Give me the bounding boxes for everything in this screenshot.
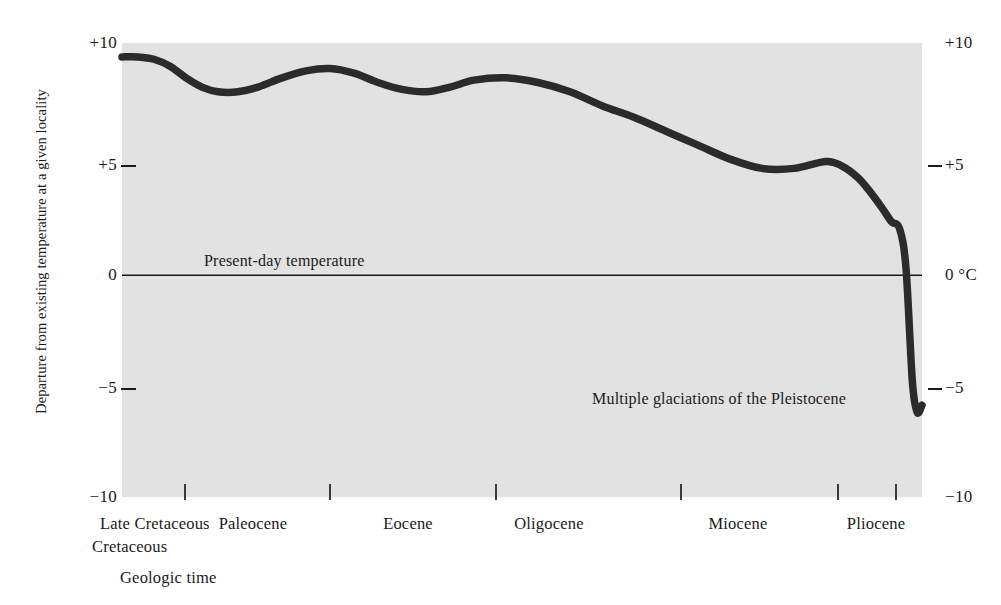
- plot-area: [122, 43, 922, 497]
- x-tick-mark-5: [837, 484, 839, 500]
- y-tick-label-left-10: +10: [75, 33, 117, 53]
- temperature-vs-geologic-time-chart: Departure from existing temperature at a…: [0, 0, 1001, 605]
- x-label-miocene: Miocene: [688, 514, 788, 534]
- x-tick-mark-3: [495, 484, 497, 500]
- y-axis-title: Departure from existing temperature at a…: [33, 22, 50, 482]
- y-tick-label-left-0: 0: [85, 265, 117, 285]
- y-tick-mark-right-neg5: [928, 388, 942, 390]
- y-tick-mark-left-5: [121, 165, 136, 167]
- y-tick-label-right-neg5: −5: [945, 378, 964, 398]
- y-tick-label-right-0: 0 °C: [945, 265, 977, 285]
- x-tick-mark-1: [184, 484, 186, 500]
- y-tick-mark-right-5: [928, 165, 942, 167]
- annotation-present-day-temperature: Present-day temperature: [204, 252, 365, 270]
- y-tick-label-right-5: +5: [945, 155, 964, 175]
- x-axis-title: Geologic time: [120, 568, 217, 588]
- x-tick-mark-2: [329, 484, 331, 500]
- y-tick-label-left-neg5: −5: [78, 378, 117, 398]
- x-label-eocene: Eocene: [358, 514, 458, 534]
- y-tick-label-left-5: +5: [80, 155, 117, 175]
- y-tick-label-right-10: +10: [945, 33, 973, 53]
- x-label-paleocene: Paleocene: [198, 514, 308, 534]
- x-tick-mark-6: [895, 484, 897, 500]
- x-label-oligocene: Oligocene: [494, 514, 604, 534]
- y-tick-label-left-neg10: −10: [72, 487, 117, 507]
- annotation-multiple-glaciations: Multiple glaciations of the Pleistocene: [592, 390, 846, 408]
- x-label-late: Late Cretaceous: [100, 514, 200, 534]
- y-tick-mark-left-neg5: [121, 388, 136, 390]
- y-tick-label-right-neg10: −10: [945, 487, 973, 507]
- x-label-cretaceous: Cretaceous: [92, 537, 167, 557]
- x-tick-mark-4: [680, 484, 682, 500]
- x-label-pliocene: Pliocene: [826, 514, 926, 534]
